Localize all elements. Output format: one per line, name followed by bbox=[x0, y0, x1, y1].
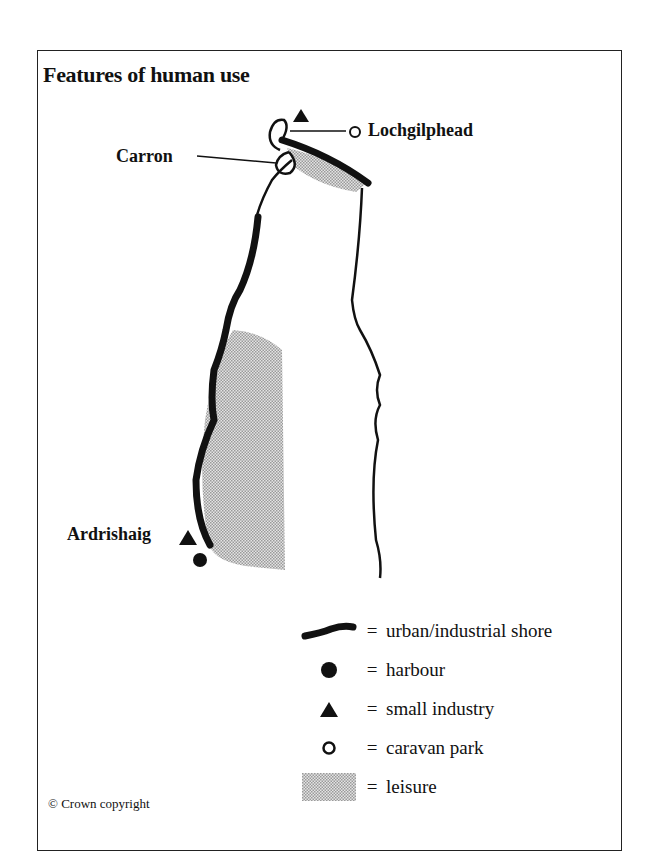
filled-triangle-icon bbox=[300, 696, 358, 722]
carron-leader bbox=[197, 156, 276, 163]
open-circle-icon bbox=[300, 735, 358, 761]
legend-item-caravan: = caravan park bbox=[300, 735, 484, 761]
west-shore bbox=[257, 160, 292, 215]
legend-item-leisure: = leisure bbox=[300, 774, 437, 800]
legend-item-urban: = urban/industrial shore bbox=[300, 618, 552, 644]
small-industry-icon bbox=[293, 109, 309, 122]
label-ardrishaig: Ardrishaig bbox=[67, 524, 151, 545]
label-carron: Carron bbox=[116, 146, 173, 167]
legend-item-harbour: = harbour bbox=[300, 657, 445, 683]
small-industry-icon bbox=[179, 530, 197, 545]
copyright-notice: © Crown copyright bbox=[48, 796, 150, 812]
stipple-swatch-icon bbox=[300, 774, 358, 800]
label-lochgilphead: Lochgilphead bbox=[368, 120, 473, 141]
caravan-park-icon bbox=[350, 127, 360, 137]
east-shore bbox=[352, 188, 381, 578]
thick-line-icon bbox=[300, 618, 358, 644]
legend-item-industry: = small industry bbox=[300, 696, 494, 722]
harbour-icon bbox=[193, 553, 207, 567]
filled-circle-icon bbox=[300, 657, 358, 683]
carron-inlet bbox=[270, 120, 295, 174]
